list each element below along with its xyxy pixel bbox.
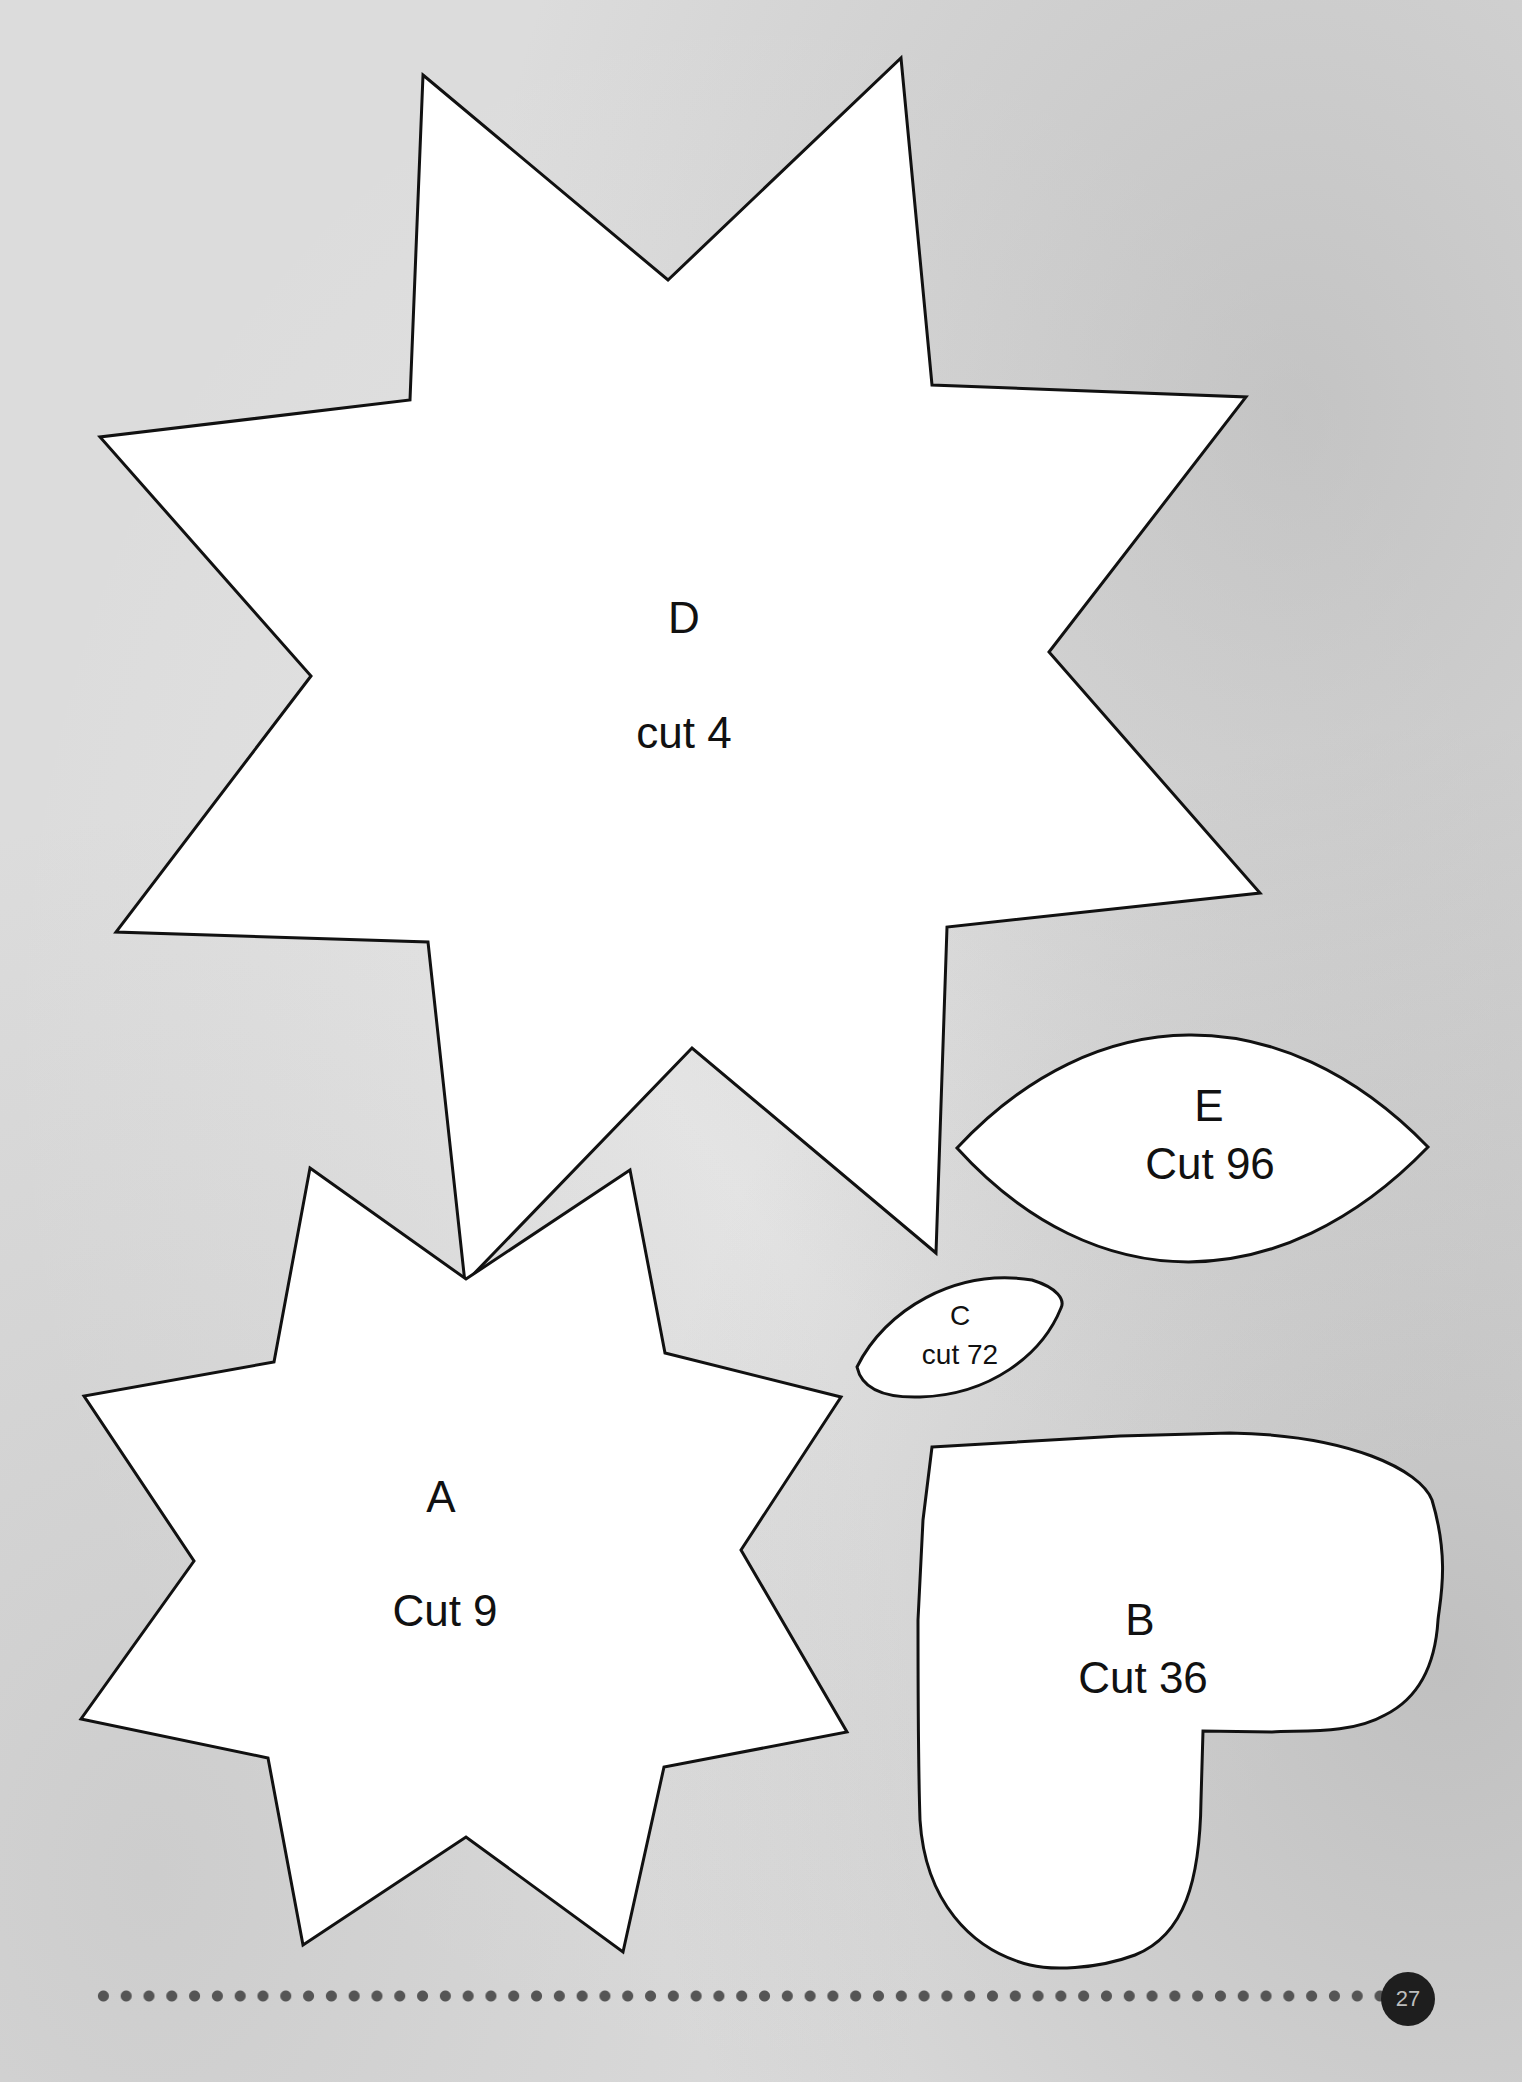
piece-d-cut-count: cut 4	[636, 708, 731, 758]
footer-dotted-rule	[92, 1990, 1392, 2002]
piece-b-cut-count: Cut 36	[1078, 1653, 1208, 1703]
piece-d-letter: D	[668, 593, 700, 643]
page-number-badge: 27	[1381, 1972, 1435, 2026]
piece-a-star-outline	[81, 1168, 847, 1952]
page-number: 27	[1396, 1986, 1420, 2012]
piece-a-cut-count: Cut 9	[392, 1586, 497, 1636]
pattern-sheet	[0, 0, 1522, 2082]
piece-a-letter: A	[426, 1472, 455, 1522]
piece-e-letter: E	[1194, 1081, 1223, 1131]
piece-e-cut-count: Cut 96	[1145, 1139, 1275, 1189]
piece-b-letter: B	[1125, 1595, 1154, 1645]
piece-c-cut-count: cut 72	[922, 1339, 998, 1371]
piece-c-leaf-outline	[857, 1278, 1062, 1397]
piece-c-letter: C	[950, 1300, 970, 1332]
